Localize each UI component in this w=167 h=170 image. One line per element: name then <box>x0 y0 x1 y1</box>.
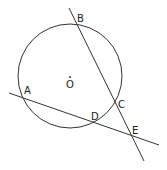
label-E: E <box>132 125 138 136</box>
label-D: D <box>91 111 99 122</box>
geometry-diagram: B O A C D E <box>0 0 167 170</box>
diagram-canvas: B O A C D E <box>0 0 167 170</box>
secant-line-BE <box>69 8 144 161</box>
label-O: O <box>66 79 74 90</box>
label-A: A <box>24 85 31 96</box>
secant-line-AE <box>9 93 159 145</box>
label-C: C <box>118 99 125 110</box>
label-B: B <box>77 13 84 24</box>
center-point-O <box>69 76 71 78</box>
